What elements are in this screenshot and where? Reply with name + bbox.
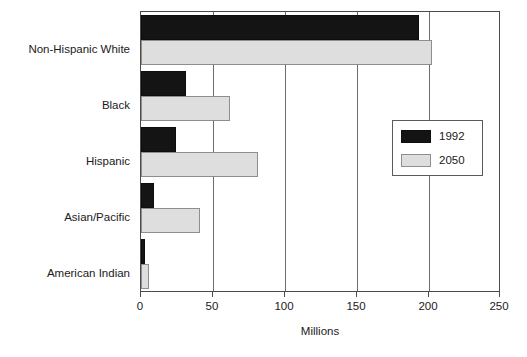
bar-hispanic-1992 (141, 127, 176, 152)
legend-swatch-1992 (401, 130, 431, 143)
category-label-black: Black (0, 99, 130, 112)
tick-mark-150 (356, 292, 357, 297)
bar-non-hispanic-white-2050 (141, 40, 432, 65)
bar-american-indian-2050 (141, 264, 149, 289)
tick-mark-0 (140, 292, 141, 297)
tick-mark-200 (428, 292, 429, 297)
chart-legend: 1992 2050 (392, 120, 483, 176)
category-label-american-indian: American Indian (0, 267, 130, 280)
tick-mark-50 (212, 292, 213, 297)
bar-asian-pacific-2050 (141, 208, 200, 233)
x-axis-title: Millions (140, 325, 500, 337)
tick-label-200: 200 (398, 299, 458, 313)
category-label-non-hispanic-white: Non-Hispanic White (0, 43, 130, 56)
bar-black-1992 (141, 71, 186, 96)
tick-label-0: 0 (110, 299, 170, 313)
tick-label-150: 150 (326, 299, 386, 313)
population-projection-bar-chart: Non-Hispanic White Black Hispanic Asian/… (0, 0, 527, 357)
legend-item-1992: 1992 (401, 128, 465, 144)
bar-non-hispanic-white-1992 (141, 15, 419, 40)
category-label-asian-pacific: Asian/Pacific (0, 211, 130, 224)
legend-label-1992: 1992 (439, 130, 465, 142)
tick-label-50: 50 (182, 299, 242, 313)
legend-item-2050: 2050 (401, 152, 465, 168)
bar-american-indian-1992 (141, 239, 145, 264)
tick-mark-250 (499, 292, 500, 297)
legend-swatch-2050 (401, 154, 431, 167)
tick-label-100: 100 (254, 299, 314, 313)
tick-mark-100 (284, 292, 285, 297)
tick-label-250: 250 (469, 299, 527, 313)
bar-black-2050 (141, 96, 230, 121)
category-axis-labels: Non-Hispanic White Black Hispanic Asian/… (0, 11, 130, 292)
bar-hispanic-2050 (141, 152, 258, 177)
bar-asian-pacific-1992 (141, 183, 154, 208)
legend-label-2050: 2050 (439, 154, 465, 166)
category-label-hispanic: Hispanic (0, 155, 130, 168)
